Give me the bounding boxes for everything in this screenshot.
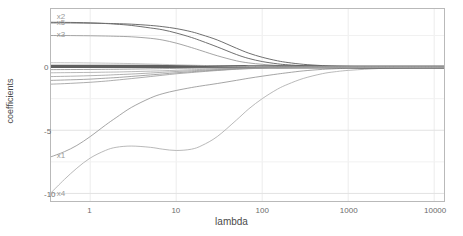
regularization-path-chart: 110100100010000 0-5-10 x2x5x3x1x4 lambda… bbox=[0, 0, 463, 236]
series-line-x5 bbox=[51, 23, 444, 67]
series-label-x4: x4 bbox=[57, 189, 65, 198]
series-label-x5: x5 bbox=[57, 18, 65, 27]
gridlines bbox=[51, 9, 444, 201]
series-line-x2 bbox=[51, 22, 444, 67]
x-tick-label: 100 bbox=[256, 206, 269, 215]
series-line-x3 bbox=[51, 36, 444, 68]
y-axis-title: coefficients bbox=[5, 61, 15, 141]
x-tick-label: 1000 bbox=[340, 206, 358, 215]
y-tick-label: -10 bbox=[44, 190, 56, 199]
y-tick-label: -5 bbox=[44, 126, 51, 135]
y-tick-label: 0 bbox=[44, 62, 48, 71]
series-curves bbox=[51, 22, 444, 193]
x-tick-label: 1 bbox=[87, 206, 91, 215]
x-tick-label: 10 bbox=[171, 206, 180, 215]
x-tick-label: 10000 bbox=[424, 206, 446, 215]
plot-svg bbox=[51, 9, 444, 201]
x-axis-title: lambda bbox=[0, 216, 463, 227]
series-label-x3: x3 bbox=[57, 30, 65, 39]
series-label-x1: x1 bbox=[57, 151, 65, 160]
plot-area bbox=[50, 8, 445, 202]
